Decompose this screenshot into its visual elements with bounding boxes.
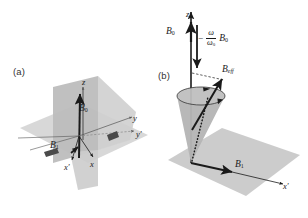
omega-ratio-numerator: ω	[207, 29, 215, 38]
panel-a-B0-subscript: 0	[85, 107, 88, 113]
panel-b-z-axis-label: z	[186, 10, 189, 19]
omega-ratio-trailing-subscript: 0	[225, 37, 228, 43]
panel-a-y-prime-axis-label: y′	[136, 130, 142, 139]
panel-a-y-axis-label: y	[133, 114, 137, 123]
panel-a-x-prime-axis-label: x′	[64, 163, 70, 172]
panel-b-x-prime-axis-label: x′	[283, 182, 289, 191]
omega-ratio-trailing-term: B0	[219, 34, 228, 44]
omega-ratio-denominator-subscript: 0	[213, 42, 215, 47]
panel-b-B1-subscript: 1	[241, 163, 244, 169]
omega-ratio-minus-sign: −	[198, 34, 203, 43]
panel-b-Beff-label: Beff	[222, 65, 234, 75]
panel-b-B1-label: B1	[235, 160, 244, 170]
panel-a-B1-label: B1	[50, 141, 59, 151]
panel-a-vertical-plane-lower	[70, 150, 98, 190]
figure-root: (a) (b) z y y′ x x′ B0 B1 z x′ B0 B1 Bef…	[0, 0, 308, 218]
omega-ratio-denominator: ω0	[206, 39, 216, 48]
panel-b-identifier: (b)	[158, 70, 170, 81]
panel-a-B0-label: B0	[79, 104, 88, 114]
figure-canvas	[0, 0, 308, 218]
panel-a-identifier: (a)	[13, 66, 25, 77]
panel-b-omega-ratio-expression: − ω ω0 B0	[198, 29, 228, 48]
panel-a-x-axis-label: x	[90, 160, 94, 169]
panel-a-graphics	[18, 76, 148, 190]
panel-a-B1-subscript: 1	[56, 144, 59, 150]
omega-ratio-fraction: ω ω0	[206, 29, 216, 48]
panel-b-graphics	[168, 12, 300, 196]
panel-b-B0-label: B0	[166, 27, 175, 37]
panel-b-Beff-subscript: eff	[228, 68, 234, 74]
panel-b-B0-subscript: 0	[172, 30, 175, 36]
panel-b-construction-dashed-line	[192, 73, 224, 80]
panel-a-z-axis-label: z	[82, 78, 85, 87]
